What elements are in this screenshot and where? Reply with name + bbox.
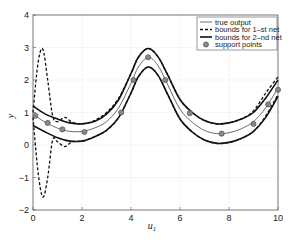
y-axis-label: y [5,113,16,119]
legend-support-points-label: support points [215,40,262,49]
support-point-marker [187,111,192,116]
support-point-marker [33,113,38,118]
x-tick-label: 8 [226,213,231,223]
support-point-marker [219,131,224,136]
y-tick-label: −1 [19,173,29,183]
x-tick-label: 10 [273,213,283,223]
support-point-marker [60,127,65,132]
legend-support-points-marker [203,42,208,47]
x-tick-label: 6 [177,213,182,223]
support-point-marker [45,120,50,125]
support-point-marker [266,102,271,107]
y-tick-label: 3 [24,43,29,53]
support-points [33,55,281,137]
y-tick-label: 1 [24,108,29,118]
chart: 0246810−2−101234 u1 y true output bounds… [0,0,300,240]
support-point-marker [275,87,280,92]
y-tick-label: 4 [24,10,29,20]
support-point-marker [131,77,136,82]
legend: true output bounds for 1–st net bounds f… [197,17,283,50]
support-point-marker [82,129,87,134]
x-tick-label: 2 [79,213,84,223]
support-point-marker [251,121,256,126]
x-tick-label: 0 [30,213,35,223]
data-series [33,48,278,197]
x-axis-label: u1 [148,220,157,233]
support-point-marker [163,77,168,82]
y-tick-label: 2 [24,75,29,85]
support-point-marker [119,110,124,115]
y-tick-label: 0 [24,140,29,150]
y-tick-label: −2 [19,205,29,215]
bounds-for-2-nd-net-lower-line [33,67,278,144]
x-tick-label: 4 [128,213,133,223]
support-point-marker [146,55,151,60]
